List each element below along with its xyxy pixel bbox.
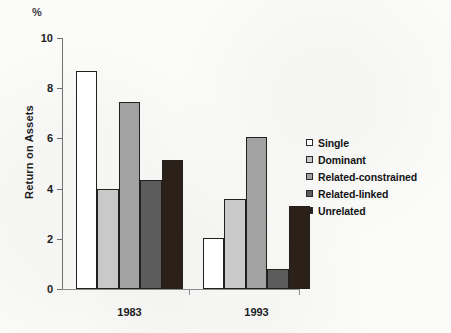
bar (140, 180, 161, 289)
chart-legend: SingleDominantRelated-constrainedRelated… (306, 134, 417, 219)
y-axis-tick-label: 4 (47, 183, 53, 195)
y-axis-tick-label: 6 (47, 132, 53, 144)
bar (203, 238, 224, 289)
chart-page: % Return on Assets 0246810 19831993 Sing… (0, 0, 451, 333)
y-axis-tick-mark (57, 189, 62, 190)
y-axis-tick-label: 8 (47, 82, 53, 94)
y-axis-tick-label: 0 (47, 283, 53, 295)
x-axis-category-label: 1983 (117, 306, 141, 318)
x-axis-line (62, 289, 300, 290)
y-axis-tick-label: 2 (47, 233, 53, 245)
legend-item: Single (306, 134, 417, 151)
legend-item: Dominant (306, 151, 417, 168)
legend-item-label: Unrelated (318, 205, 366, 217)
bar (97, 189, 118, 289)
bar (162, 160, 183, 289)
y-axis-line (62, 38, 63, 289)
x-axis-group-separator (189, 289, 190, 295)
legend-swatch-icon (306, 156, 313, 163)
legend-item-label: Single (318, 137, 349, 149)
y-axis-tick-mark (57, 38, 62, 39)
bar (246, 137, 267, 289)
percent-unit-label: % (32, 6, 42, 18)
bar (76, 71, 97, 289)
bar (289, 206, 310, 289)
bar (224, 199, 245, 289)
y-axis-tick-mark (57, 289, 62, 290)
y-axis-title: Return on Assets (23, 72, 35, 232)
legend-swatch-icon (306, 173, 313, 180)
y-axis-tick-label: 10 (41, 32, 53, 44)
legend-item: Unrelated (306, 202, 417, 219)
y-axis-tick-mark (57, 138, 62, 139)
plot-area: 0246810 19831993 (62, 34, 300, 293)
legend-swatch-icon (306, 139, 313, 146)
bar (119, 102, 140, 289)
x-axis-end-tick (299, 289, 300, 295)
legend-item-label: Related-linked (318, 188, 388, 200)
legend-item: Related-linked (306, 185, 417, 202)
x-axis-category-label: 1993 (244, 306, 268, 318)
legend-item-label: Dominant (318, 154, 366, 166)
legend-item: Related-constrained (306, 168, 417, 185)
y-axis-tick-mark (57, 88, 62, 89)
y-axis-tick-mark (57, 239, 62, 240)
legend-item-label: Related-constrained (318, 171, 417, 183)
legend-swatch-icon (306, 190, 313, 197)
bar (267, 269, 288, 289)
